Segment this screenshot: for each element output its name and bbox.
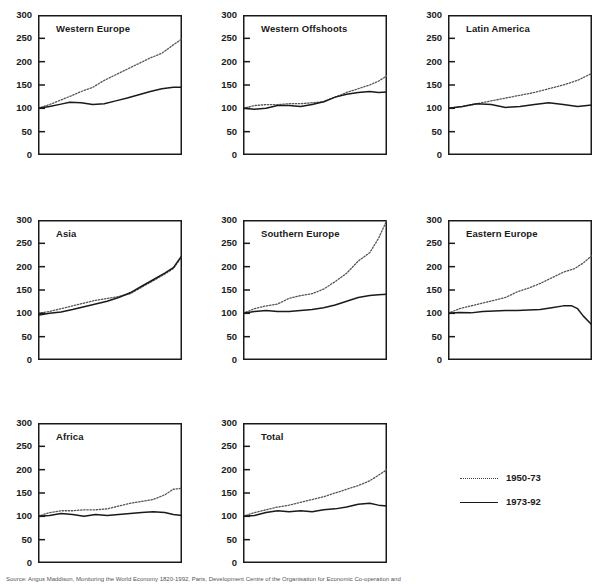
y-axis-tick-label: 50 bbox=[207, 534, 237, 545]
legend-dotted-line-icon bbox=[460, 478, 498, 479]
y-axis-tick-label: 200 bbox=[2, 56, 32, 67]
legend-label: 1973-92 bbox=[506, 496, 541, 507]
y-axis-tick-label: 150 bbox=[2, 284, 32, 295]
plot-area bbox=[38, 220, 182, 360]
panel-title: Western Offshoots bbox=[261, 23, 348, 34]
plot-frame bbox=[449, 16, 592, 155]
plot-area bbox=[448, 15, 592, 155]
panel-title: Western Europe bbox=[56, 23, 130, 34]
y-axis-tick-label: 200 bbox=[207, 464, 237, 475]
y-axis-tick-label: 150 bbox=[207, 79, 237, 90]
y-axis-tick-label: 50 bbox=[207, 126, 237, 137]
plot-frame bbox=[39, 221, 182, 360]
plot-area bbox=[38, 15, 182, 155]
panel-title: Southern Europe bbox=[261, 228, 340, 239]
chart-panel-western-europe bbox=[38, 15, 182, 155]
y-axis-tick-label: 150 bbox=[207, 487, 237, 498]
y-axis-tick-label: 100 bbox=[2, 510, 32, 521]
y-axis-tick-label: 50 bbox=[412, 126, 442, 137]
y-axis-tick-label: 200 bbox=[2, 261, 32, 272]
y-axis-tick-label: 100 bbox=[207, 307, 237, 318]
plot-frame bbox=[244, 424, 387, 563]
y-axis-tick-label: 200 bbox=[412, 56, 442, 67]
y-axis-tick-label: 150 bbox=[412, 79, 442, 90]
y-axis-tick-label: 50 bbox=[2, 331, 32, 342]
plot-area bbox=[38, 423, 182, 563]
y-axis-tick-label: 300 bbox=[207, 9, 237, 20]
chart-panel-asia bbox=[38, 220, 182, 360]
y-axis-tick-label: 300 bbox=[2, 417, 32, 428]
panel-title: Latin America bbox=[466, 23, 530, 34]
y-axis-tick-label: 250 bbox=[2, 440, 32, 451]
chart-panel-eastern-europe bbox=[448, 220, 592, 360]
panel-title: Eastern Europe bbox=[466, 228, 538, 239]
panel-title: Africa bbox=[56, 431, 84, 442]
y-axis-tick-label: 300 bbox=[207, 214, 237, 225]
y-axis-tick-label: 100 bbox=[412, 307, 442, 318]
y-axis-tick-label: 250 bbox=[412, 237, 442, 248]
chart-panel-southern-europe bbox=[243, 220, 387, 360]
y-axis-tick-label: 0 bbox=[207, 149, 237, 160]
plot-area bbox=[243, 220, 387, 360]
y-axis-tick-label: 200 bbox=[412, 261, 442, 272]
y-axis-tick-label: 50 bbox=[2, 534, 32, 545]
figure-caption: Source: Angus Maddison, Monitoring the W… bbox=[6, 576, 598, 582]
plot-area bbox=[243, 15, 387, 155]
plot-frame bbox=[244, 16, 387, 155]
y-axis-tick-label: 150 bbox=[412, 284, 442, 295]
y-axis-tick-label: 250 bbox=[2, 237, 32, 248]
y-axis-tick-label: 100 bbox=[412, 102, 442, 113]
y-axis-tick-label: 50 bbox=[412, 331, 442, 342]
y-axis-tick-label: 50 bbox=[207, 331, 237, 342]
y-axis-tick-label: 50 bbox=[2, 126, 32, 137]
chart-panel-total bbox=[243, 423, 387, 563]
y-axis-tick-label: 0 bbox=[207, 557, 237, 568]
y-axis-tick-label: 0 bbox=[2, 354, 32, 365]
y-axis-tick-label: 0 bbox=[412, 354, 442, 365]
plot-area bbox=[243, 423, 387, 563]
plot-frame bbox=[449, 221, 592, 360]
chart-panel-western-offshoots bbox=[243, 15, 387, 155]
legend-solid-line-icon bbox=[460, 502, 498, 503]
y-axis-tick-label: 0 bbox=[207, 354, 237, 365]
y-axis-tick-label: 0 bbox=[412, 149, 442, 160]
y-axis-tick-label: 0 bbox=[2, 149, 32, 160]
y-axis-tick-label: 300 bbox=[2, 214, 32, 225]
y-axis-tick-label: 250 bbox=[207, 237, 237, 248]
plot-area bbox=[448, 220, 592, 360]
y-axis-tick-label: 250 bbox=[207, 32, 237, 43]
y-axis-tick-label: 250 bbox=[2, 32, 32, 43]
y-axis-tick-label: 300 bbox=[412, 214, 442, 225]
chart-panel-africa bbox=[38, 423, 182, 563]
y-axis-tick-label: 250 bbox=[412, 32, 442, 43]
plot-frame bbox=[39, 424, 182, 563]
panel-title: Asia bbox=[56, 228, 76, 239]
panel-title: Total bbox=[261, 431, 284, 442]
small-multiples-figure: Western Europe300250200150100500Western … bbox=[0, 0, 604, 584]
chart-panel-latin-america bbox=[448, 15, 592, 155]
y-axis-tick-label: 300 bbox=[2, 9, 32, 20]
y-axis-tick-label: 200 bbox=[207, 56, 237, 67]
y-axis-tick-label: 300 bbox=[412, 9, 442, 20]
y-axis-tick-label: 100 bbox=[2, 102, 32, 113]
y-axis-tick-label: 300 bbox=[207, 417, 237, 428]
plot-frame bbox=[39, 16, 182, 155]
y-axis-tick-label: 150 bbox=[2, 487, 32, 498]
plot-frame bbox=[244, 221, 387, 360]
y-axis-tick-label: 250 bbox=[207, 440, 237, 451]
y-axis-tick-label: 200 bbox=[2, 464, 32, 475]
y-axis-tick-label: 0 bbox=[2, 557, 32, 568]
y-axis-tick-label: 200 bbox=[207, 261, 237, 272]
y-axis-tick-label: 150 bbox=[2, 79, 32, 90]
y-axis-tick-label: 100 bbox=[207, 510, 237, 521]
y-axis-tick-label: 100 bbox=[2, 307, 32, 318]
y-axis-tick-label: 150 bbox=[207, 284, 237, 295]
legend-label: 1950-73 bbox=[506, 472, 541, 483]
y-axis-tick-label: 100 bbox=[207, 102, 237, 113]
